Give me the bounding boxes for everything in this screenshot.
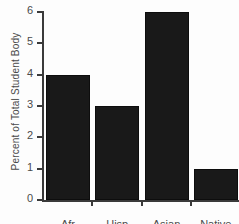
bar-hisp (95, 106, 139, 200)
bar-afr (46, 75, 90, 200)
x-axis-tick (190, 200, 192, 206)
x-axis-tick (91, 200, 93, 206)
bar-asian (145, 12, 189, 200)
y-axis-tick-label: 3 (19, 98, 33, 111)
y-axis-tick: 2 (37, 136, 44, 138)
y-axis-tick: 5 (37, 42, 44, 44)
y-axis-line (42, 12, 44, 202)
x-axis-category-label: Native (186, 217, 239, 224)
x-axis-tick (141, 200, 143, 206)
y-axis-tick: 3 (37, 105, 44, 107)
chart-title: STUDENT POPULATION (0, 0, 239, 3)
y-axis-tick-label: 2 (19, 129, 33, 142)
y-axis-tick-label: 5 (19, 35, 33, 48)
y-axis-tick: 4 (37, 74, 44, 76)
y-axis-tick-label: 4 (19, 67, 33, 80)
y-axis-tick: 6 (37, 11, 44, 13)
y-axis-tick: 1 (37, 168, 44, 170)
y-axis-tick: 0 (37, 199, 44, 201)
y-axis-tick-label: 6 (19, 4, 33, 17)
y-axis-tick-label: 1 (19, 161, 33, 174)
plot-area: 0123456 AfrHispAsianNative (42, 12, 239, 202)
bar-chart-figure: STUDENT POPULATION Percent of Total Stud… (0, 0, 239, 224)
y-axis-tick-label: 0 (19, 192, 33, 205)
bar-native (194, 169, 238, 200)
